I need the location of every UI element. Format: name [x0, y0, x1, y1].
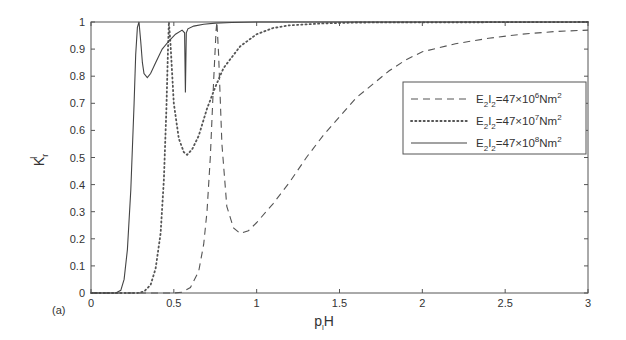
x-tick-label: 1.5 — [332, 297, 347, 309]
plot-area — [91, 22, 588, 293]
y-tick-label: 0.5 — [70, 152, 85, 164]
legend: E2I2=47×106Nm2E2I2=47×107Nm2E2I2=47×108N… — [403, 82, 586, 154]
y-tick-label: 0.4 — [70, 179, 85, 191]
y-tick-label: 1 — [79, 16, 85, 28]
x-tick-label: 2 — [419, 297, 425, 309]
y-tick-label: 0.9 — [70, 43, 85, 55]
y-tick-label: 0.6 — [70, 124, 85, 136]
y-tick-label: 0.3 — [70, 206, 85, 218]
x-tick-label: 1 — [254, 297, 260, 309]
panel-label: (a) — [52, 304, 65, 316]
line-chart: 00.511.522.5300.10.20.30.40.50.60.70.80.… — [0, 0, 626, 340]
x-axis-label: plH — [314, 313, 334, 332]
x-tick-label: 3 — [585, 297, 591, 309]
y-tick-label: 0 — [79, 287, 85, 299]
y-tick-label: 0.7 — [70, 97, 85, 109]
x-tick-label: 0 — [88, 297, 94, 309]
svg-text:Krl: Krl — [29, 154, 50, 166]
y-tick-label: 0.2 — [70, 233, 85, 245]
x-tick-label: 0.5 — [166, 297, 181, 309]
x-tick-label: 2.5 — [498, 297, 513, 309]
y-axis-label: Krl — [29, 154, 50, 166]
y-tick-label: 0.1 — [70, 260, 85, 272]
y-tick-label: 0.8 — [70, 70, 85, 82]
